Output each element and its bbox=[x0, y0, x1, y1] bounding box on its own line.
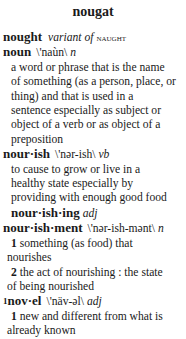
sense-continuation: nourishes bbox=[3, 251, 186, 265]
definition-line: healthy state especially by bbox=[3, 177, 186, 191]
pronunciation: \'näv-əl\ bbox=[46, 295, 84, 308]
entry-list: noughtvariant ofnaught noun\'naùn\n a wo… bbox=[3, 30, 186, 339]
sense-number: 2 bbox=[11, 266, 17, 279]
derived-form-nourishing: nour·ish·ingadj bbox=[3, 206, 186, 221]
sense-2: 2 the act of nourishing : the state bbox=[3, 266, 186, 280]
sense-1: 1 new and different from what is bbox=[3, 310, 186, 324]
entry-novel: 1nov·el\'näv-əl\adj bbox=[3, 294, 186, 309]
derived-headword[interactable]: nour·ish·ing bbox=[11, 205, 80, 220]
part-of-speech: n bbox=[158, 222, 164, 235]
cross-reference-link[interactable]: naught bbox=[96, 32, 126, 43]
definition-line: thing) and that is used in a bbox=[3, 90, 186, 104]
headword[interactable]: nought bbox=[3, 29, 42, 44]
headword[interactable]: noun bbox=[3, 44, 31, 59]
sense-continuation: of being nourished bbox=[3, 280, 186, 294]
sense-text: the act of nourishing : the state bbox=[20, 266, 163, 279]
definition-line: sentence especially as subject or bbox=[3, 104, 186, 118]
sense-number: 1 bbox=[11, 310, 17, 323]
part-of-speech: n bbox=[70, 46, 76, 59]
definition-line: to cause to grow or live in a bbox=[3, 163, 186, 177]
pronunciation: \'nər-ish\ bbox=[55, 148, 96, 161]
part-of-speech: adj bbox=[83, 207, 98, 220]
sense-text: new and different from what is bbox=[20, 310, 163, 323]
sense-1: 1 something (as food) that bbox=[3, 237, 186, 251]
entry-noun: noun\'naùn\n bbox=[3, 45, 186, 60]
definition-line: providing with enough good food bbox=[3, 191, 186, 205]
headword[interactable]: nour·ish·ment bbox=[3, 220, 82, 235]
sense-continuation: already known bbox=[3, 324, 186, 338]
definition-line: object of a verb or as object of a bbox=[3, 118, 186, 132]
part-of-speech: adj bbox=[87, 295, 102, 308]
variant-label: variant of bbox=[48, 31, 93, 44]
pronunciation: \'nər-ish-mənt\ bbox=[87, 222, 155, 235]
entry-nourish: nour·ish\'nər-ish\vb bbox=[3, 147, 186, 162]
sense-number: 1 bbox=[11, 237, 17, 250]
pronunciation: \'naùn\ bbox=[36, 46, 67, 59]
definition-line: a word or phrase that is the name bbox=[3, 61, 186, 75]
headword[interactable]: nour·ish bbox=[3, 146, 50, 161]
entry-nourishment: nour·ish·ment\'nər-ish-mənt\n bbox=[3, 221, 186, 236]
definition-line: preposition bbox=[3, 133, 186, 147]
part-of-speech: vb bbox=[98, 148, 109, 161]
sense-text: something (as food) that bbox=[20, 237, 133, 250]
page-title: nougat bbox=[0, 4, 186, 20]
definition-line: of something (as a person, place, or bbox=[3, 75, 186, 89]
headword[interactable]: nov·el bbox=[8, 293, 42, 308]
entry-nought: noughtvariant ofnaught bbox=[3, 30, 186, 45]
